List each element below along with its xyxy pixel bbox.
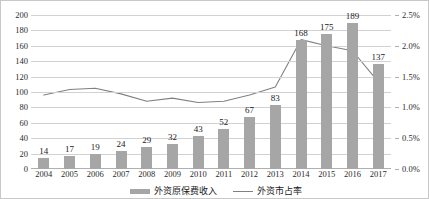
x-axis-tick-label: 2009 — [164, 170, 181, 179]
x-axis-tick-label: 2005 — [61, 170, 78, 179]
bar — [373, 64, 384, 169]
bar-value-label: 24 — [117, 140, 126, 149]
y-axis-right-tick: 0.5% — [402, 134, 420, 143]
bar — [64, 156, 75, 169]
gridline — [31, 92, 391, 93]
x-axis-tick-label: 2017 — [370, 170, 387, 179]
legend-label-bar: 外资原保费收入 — [154, 187, 217, 196]
bar-value-label: 189 — [346, 12, 360, 21]
bar-value-label: 137 — [371, 53, 385, 62]
gridline — [31, 138, 391, 139]
bar — [347, 23, 358, 169]
y-axis-left: 020406080100120140160180200 — [1, 15, 28, 169]
bar — [244, 117, 255, 169]
y-axis-left-tick: 0 — [2, 165, 28, 174]
chart-container: 020406080100120140160180200 141719242932… — [0, 0, 429, 199]
bar — [141, 147, 152, 169]
x-axis-tick-label: 2012 — [241, 170, 258, 179]
x-axis-tick-label: 2015 — [318, 170, 335, 179]
y-axis-right-tick-mark — [395, 169, 399, 170]
y-axis-right-tick: 1.0% — [402, 103, 420, 112]
legend-item-bar: 外资原保费收入 — [130, 187, 217, 196]
y-axis-left-tick: 80 — [2, 103, 28, 112]
bar-value-label: 14 — [39, 147, 48, 156]
legend-line-swatch-icon — [233, 191, 253, 192]
x-axis-tick-label: 2007 — [113, 170, 130, 179]
y-axis-left-tick: 180 — [2, 26, 28, 35]
y-axis-left-tick: 160 — [2, 42, 28, 51]
x-axis-tick-label: 2011 — [216, 170, 233, 179]
bar-value-label: 32 — [168, 133, 177, 142]
bar-value-label: 29 — [142, 136, 151, 145]
gridline — [31, 15, 391, 16]
y-axis-right-tick-mark — [395, 77, 399, 78]
bar-value-label: 43 — [194, 125, 203, 134]
x-axis-tick-label: 2008 — [138, 170, 155, 179]
y-axis-right: 0.0%0.5%1.0%1.5%2.0%2.5% — [393, 15, 429, 169]
chart-legend: 外资原保费收入 外资市占率 — [1, 184, 429, 198]
y-axis-left-tick: 60 — [2, 119, 28, 128]
y-axis-left-tick: 20 — [2, 149, 28, 158]
gridline — [31, 30, 391, 31]
gridline — [31, 77, 391, 78]
plot-area: 14171924293243526783168175189137 — [31, 15, 391, 169]
y-axis-right-tick: 2.0% — [402, 42, 420, 51]
bar-value-label: 67 — [245, 106, 254, 115]
y-axis-right-tick-mark — [395, 107, 399, 108]
bar-value-label: 168 — [294, 29, 308, 38]
legend-item-line: 外资市占率 — [233, 187, 302, 196]
y-axis-right-tick-mark — [395, 15, 399, 16]
bar-value-label: 17 — [65, 145, 74, 154]
bar — [296, 40, 307, 169]
legend-label-line: 外资市占率 — [257, 187, 302, 196]
bar-value-label: 83 — [271, 94, 280, 103]
bar-value-label: 19 — [91, 143, 100, 152]
gridline — [31, 154, 391, 155]
bar — [167, 144, 178, 169]
y-axis-left-tick: 140 — [2, 57, 28, 66]
x-axis-tick-label: 2014 — [293, 170, 310, 179]
x-axis-tick-label: 2006 — [87, 170, 104, 179]
bar-value-label: 175 — [320, 23, 334, 32]
legend-bar-swatch-icon — [130, 189, 150, 194]
gridline — [31, 46, 391, 47]
x-axis-tick-label: 2016 — [344, 170, 361, 179]
x-axis-tick-label: 2010 — [190, 170, 207, 179]
bar-value-label: 52 — [219, 118, 228, 127]
bar — [321, 34, 332, 169]
bar — [38, 158, 49, 169]
bar — [90, 154, 101, 169]
y-axis-left-tick: 40 — [2, 134, 28, 143]
bar — [116, 151, 127, 169]
x-axis-tick-label: 2013 — [267, 170, 284, 179]
y-axis-left-tick: 100 — [2, 88, 28, 97]
gridline — [31, 107, 391, 108]
bar — [218, 129, 229, 169]
x-axis: 2004200520062007200820092010201120122013… — [31, 170, 391, 182]
y-axis-right-tick-mark — [395, 138, 399, 139]
y-axis-right-tick: 1.5% — [402, 72, 420, 81]
bar — [193, 136, 204, 169]
y-axis-left-tick: 200 — [2, 11, 28, 20]
gridline — [31, 123, 391, 124]
x-axis-tick-label: 2004 — [35, 170, 52, 179]
bar — [270, 105, 281, 169]
gridline — [31, 61, 391, 62]
y-axis-right-tick-mark — [395, 46, 399, 47]
y-axis-left-tick: 120 — [2, 72, 28, 81]
y-axis-right-tick: 0.0% — [402, 165, 420, 174]
y-axis-right-tick: 2.5% — [402, 11, 420, 20]
